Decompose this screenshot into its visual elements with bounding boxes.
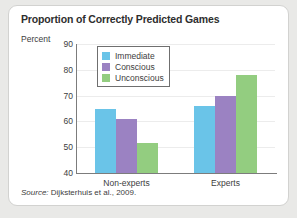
bar-conscious-non-experts [116, 119, 137, 173]
legend-item-label: Unconscious [115, 73, 164, 83]
legend-swatch-icon [102, 52, 110, 60]
y-axis-tick-label: 90 [64, 39, 73, 49]
legend-item: Unconscious [102, 72, 164, 83]
source-prefix: Source: [21, 188, 49, 197]
y-axis-tick-label: 80 [64, 65, 73, 75]
y-axis-tick-label: 60 [64, 116, 73, 126]
bar-unconscious-experts [236, 75, 257, 173]
chart-legend: ImmediateConsciousUnconscious [97, 46, 170, 87]
y-axis-tick-label: 50 [64, 142, 73, 152]
y-axis-tick-label: 40 [64, 168, 73, 178]
bar-unconscious-non-experts [137, 143, 158, 173]
bar-group: Experts [176, 44, 275, 173]
legend-item: Conscious [102, 61, 164, 72]
x-axis-line [76, 173, 277, 174]
legend-item: Immediate [102, 50, 164, 61]
source-note: Source: Dijksterhuis et al., 2009. [21, 188, 136, 197]
x-axis-category-label: Non-experts [103, 178, 149, 188]
legend-swatch-icon [102, 74, 110, 82]
x-axis-category-label: Experts [211, 178, 240, 188]
legend-item-label: Conscious [115, 62, 155, 72]
chart-title: Proportion of Correctly Predicted Games [21, 13, 219, 25]
legend-item-label: Immediate [115, 51, 155, 61]
y-axis-unit-label: Percent [21, 34, 50, 44]
source-text: Dijksterhuis et al., 2009. [49, 188, 137, 197]
bar-immediate-non-experts [95, 109, 116, 174]
bar-conscious-experts [215, 96, 236, 173]
y-axis-tick-label: 70 [64, 91, 73, 101]
chart-card: Proportion of Correctly Predicted Games … [8, 5, 289, 206]
bar-immediate-experts [194, 106, 215, 173]
legend-swatch-icon [102, 63, 110, 71]
